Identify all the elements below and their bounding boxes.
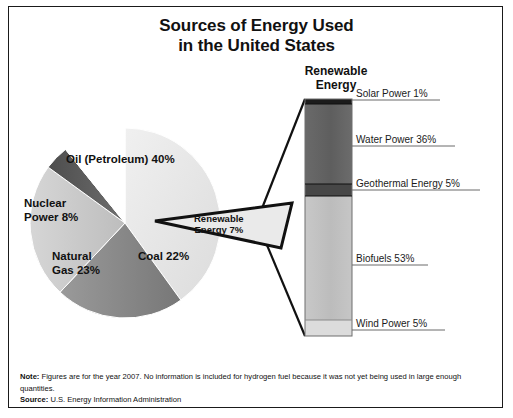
footnote-note-label: Note:	[20, 372, 39, 381]
bar-label-geothermal: Geothermal Energy 5%	[356, 178, 460, 189]
bar-segment-wind[interactable]	[305, 320, 352, 336]
bar-segment-solar[interactable]	[305, 99, 352, 104]
footnote-source-text: U.S. Energy Information Administration	[48, 395, 181, 404]
footnote-source-label: Source:	[20, 395, 48, 404]
footnote-note-line: Note: Figures are for the year 2007. No …	[20, 371, 492, 394]
pie-label-nuclear-line2: Power 8%	[24, 211, 78, 223]
footnote-note-text: Figures are for the year 2007. No inform…	[20, 372, 461, 393]
bar-heading-line2: Energy	[316, 78, 357, 92]
bar-label-solar: Solar Power 1%	[356, 88, 428, 99]
bar-segment-biofuels[interactable]	[305, 196, 352, 320]
bar-label-water: Water Power 36%	[356, 134, 436, 145]
pie-label-renewable-callout: Renewable Energy 7%	[194, 213, 244, 235]
pie-label-nuclear-line1: Nuclear	[24, 197, 66, 209]
bar-segment-water[interactable]	[305, 104, 352, 184]
renewable-stacked-bar	[305, 99, 352, 336]
chart-figure: Sources of Energy Used in the United Sta…	[0, 0, 513, 418]
pie-label-natural-gas-line1: Natural	[52, 250, 92, 262]
bar-heading-line1: Renewable	[305, 64, 368, 78]
bar-label-biofuels: Biofuels 53%	[356, 253, 414, 264]
bar-label-wind: Wind Power 5%	[356, 318, 427, 329]
footnote: Note: Figures are for the year 2007. No …	[20, 371, 492, 406]
pie-label-natural-gas-line2: Gas 23%	[52, 264, 100, 276]
callout-line2: Energy 7%	[195, 224, 244, 235]
pie-label-coal: Coal 22%	[138, 250, 189, 264]
pie-label-nuclear: Nuclear Power 8%	[24, 197, 78, 224]
pie-label-natural-gas: Natural Gas 23%	[52, 250, 100, 277]
callout-line1: Renewable	[194, 213, 244, 224]
footnote-source-line: Source: U.S. Energy Information Administ…	[20, 394, 492, 406]
pie-label-oil: Oil (Petroleum) 40%	[66, 153, 175, 167]
bar-segment-geothermal[interactable]	[305, 184, 352, 196]
